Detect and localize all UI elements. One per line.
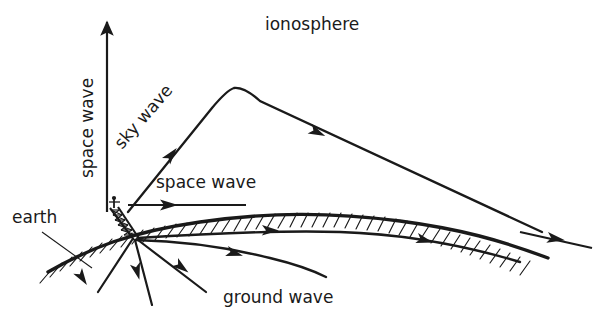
space-wave-vertical-label: space wave: [77, 78, 97, 178]
earth-surface: [40, 213, 548, 283]
earth-hatching: [40, 213, 530, 283]
space-wave-horizontal-label: space wave: [156, 172, 256, 192]
radio-wave-propagation-diagram: earth: [0, 0, 608, 320]
downward-rays: [98, 240, 206, 305]
ground-wave-label: ground wave: [223, 287, 333, 307]
ionosphere-label: ionosphere: [265, 14, 359, 34]
earth-label: earth: [12, 207, 57, 227]
horizontal-space-wave-arrow: [128, 200, 246, 211]
